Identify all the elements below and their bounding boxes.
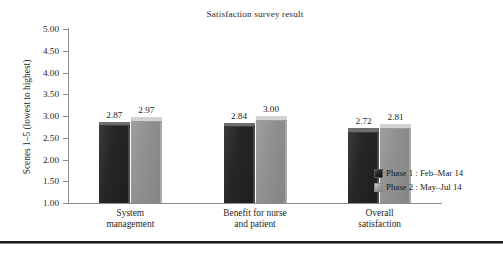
bar-body	[224, 126, 255, 203]
bar	[224, 123, 255, 203]
y-axis-tick-labels: 5.004.504.003.503.002.502.001.501.00	[22, 0, 59, 254]
bar-value-label: 2.72	[356, 116, 372, 126]
bar-body	[99, 125, 130, 203]
chart-title: Satisfaction survey result	[68, 9, 442, 19]
bar-top-cap	[99, 122, 130, 127]
bar-value-label: 2.87	[106, 110, 122, 120]
bar	[256, 116, 287, 203]
category-label-line: System	[106, 208, 154, 219]
legend-item-label: Phase 2 : May–Jul 14	[386, 182, 462, 192]
legend-swatch-icon	[374, 183, 383, 192]
bar-top-cap	[224, 123, 255, 128]
category-label-line: and patient	[223, 219, 287, 230]
chart-legend: Phase 1 : Feb–Mar 14Phase 2 : May–Jul 14	[374, 166, 503, 194]
category-label-line: management	[106, 219, 154, 230]
bar-side-shade	[285, 116, 287, 203]
bar-side-shade	[253, 123, 255, 203]
y-axis-tick-label: 1.50	[25, 176, 59, 186]
y-axis-tick-label: 2.50	[25, 133, 59, 143]
category-label-line: satisfaction	[358, 219, 401, 230]
bar-body	[256, 119, 287, 203]
bar-value-label: 2.81	[388, 112, 404, 122]
y-axis-tick	[63, 203, 68, 204]
x-axis-category-label: Benefit for nurseand patient	[223, 208, 287, 231]
y-axis-tick-label: 5.00	[25, 24, 59, 34]
x-axis-line	[68, 203, 442, 204]
y-axis-tick-label: 4.50	[25, 46, 59, 56]
category-label-line: Benefit for nurse	[223, 208, 287, 219]
y-axis-tick-label: 3.00	[25, 111, 59, 121]
bar-value-label: 2.97	[138, 105, 154, 115]
legend-item-label: Phase 1 : Feb–Mar 14	[386, 168, 463, 178]
y-axis-tick-label: 1.00	[25, 198, 59, 208]
y-axis-tick-label: 2.00	[25, 155, 59, 165]
bottom-divider-rule-shadow	[0, 243, 503, 244]
bar-side-shade	[128, 122, 130, 203]
figure-bar-chart: Satisfaction survey result Scenes 1–5 (l…	[0, 0, 503, 254]
bar	[99, 122, 130, 203]
bar-top-cap	[380, 124, 411, 129]
category-label-line: Overall	[358, 208, 401, 219]
x-axis-category-label: Overallsatisfaction	[358, 208, 401, 231]
bar-body	[131, 120, 162, 203]
bar-top-cap	[256, 116, 287, 121]
bar-value-label: 2.84	[231, 111, 247, 121]
legend-item[interactable]: Phase 2 : May–Jul 14	[374, 180, 503, 194]
bar-top-cap	[348, 128, 379, 133]
y-axis-tick-label: 4.00	[25, 68, 59, 78]
bar	[131, 117, 162, 203]
x-axis-category-label: Systemmanagement	[106, 208, 154, 231]
legend-item[interactable]: Phase 1 : Feb–Mar 14	[374, 166, 503, 180]
bar-value-label: 3.00	[263, 104, 279, 114]
bar-top-cap	[131, 117, 162, 122]
legend-swatch-icon	[374, 169, 383, 178]
y-axis-tick-label: 3.50	[25, 89, 59, 99]
bar-side-shade	[160, 117, 162, 203]
